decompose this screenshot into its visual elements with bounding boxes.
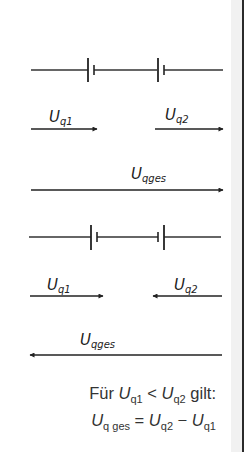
voltage-source-series-diagram: Uq1 Uq2 Uqges Uq1 Uq2 bbox=[0, 0, 249, 452]
caption: Für Uq1 < Uq2 gilt: Uq ges = Uq2 − Uq1 bbox=[89, 384, 216, 432]
circuit-opposing: Uq1 Uq2 Uqges bbox=[29, 225, 222, 355]
battery-1-icon bbox=[88, 58, 94, 82]
label-uq2: Uq2 bbox=[165, 106, 189, 125]
svg-text:Uqges: Uqges bbox=[80, 331, 115, 350]
battery-2-reversed-icon bbox=[158, 225, 164, 250]
battery-2-icon bbox=[158, 58, 164, 82]
svg-text:Uq1: Uq1 bbox=[49, 108, 73, 127]
label-uqges: Uqges bbox=[80, 331, 115, 350]
svg-text:Uq2: Uq2 bbox=[174, 276, 198, 295]
caption-condition: Für Uq1 < Uq2 gilt: bbox=[89, 384, 216, 405]
svg-text:Uq2: Uq2 bbox=[165, 106, 189, 125]
circuit-aiding: Uq1 Uq2 Uqges bbox=[31, 58, 223, 190]
caption-formula: Uq ges = Uq2 − Uq1 bbox=[91, 411, 216, 432]
svg-text:Uqges: Uqges bbox=[131, 165, 166, 184]
label-uq2: Uq2 bbox=[174, 276, 198, 295]
label-uqges: Uqges bbox=[131, 165, 166, 184]
battery-1-icon bbox=[91, 225, 97, 250]
svg-text:Uq1: Uq1 bbox=[47, 276, 71, 295]
label-uq1: Uq1 bbox=[49, 108, 73, 127]
label-uq1: Uq1 bbox=[47, 276, 71, 295]
